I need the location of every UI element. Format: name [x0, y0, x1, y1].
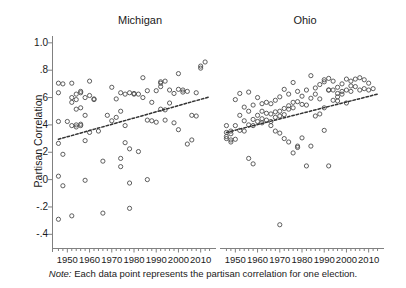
data-point: [371, 87, 375, 91]
data-point: [282, 106, 286, 110]
data-point: [287, 92, 291, 96]
data-point: [260, 102, 264, 106]
data-point: [255, 95, 259, 99]
data-point: [83, 178, 87, 182]
data-point: [172, 121, 176, 125]
data-point: [114, 115, 118, 119]
data-point: [145, 89, 149, 93]
data-point: [331, 98, 335, 102]
partisan-correlation-figure: Michigan Ohio Partisan Correlation 1.0.8…: [0, 0, 406, 288]
data-point: [70, 81, 74, 85]
data-point: [251, 162, 255, 166]
data-point: [251, 117, 255, 121]
data-point: [101, 159, 105, 163]
data-point: [56, 141, 60, 145]
y-axis-tick-label: .0: [20, 175, 48, 185]
data-point: [273, 115, 277, 119]
data-point: [150, 119, 154, 123]
data-point: [154, 120, 158, 124]
data-point: [335, 85, 339, 89]
data-point: [145, 118, 149, 122]
data-point: [322, 128, 326, 132]
data-point: [119, 91, 123, 95]
y-axis-tick-label: .2: [20, 147, 48, 157]
data-point: [229, 132, 233, 136]
scatter-plot-canvas: [0, 0, 406, 288]
data-point: [190, 113, 194, 117]
data-point: [127, 181, 131, 185]
data-point: [344, 77, 348, 81]
panel-title-ohio: Ohio: [260, 14, 350, 26]
data-point: [295, 89, 299, 93]
data-point: [255, 119, 259, 123]
data-point: [56, 174, 60, 178]
data-point: [304, 88, 308, 92]
data-point: [349, 84, 353, 88]
data-point: [313, 86, 317, 90]
data-point: [61, 82, 65, 86]
data-point: [185, 142, 189, 146]
data-point: [304, 103, 308, 107]
data-point: [101, 211, 105, 215]
data-point: [291, 106, 295, 110]
data-point: [145, 178, 149, 182]
data-point: [127, 147, 131, 151]
data-point: [278, 114, 282, 118]
data-point: [255, 113, 259, 117]
data-point: [282, 87, 286, 91]
data-point: [172, 91, 176, 95]
data-point: [331, 79, 335, 83]
data-point: [291, 151, 295, 155]
data-point: [70, 100, 74, 104]
data-point: [260, 109, 264, 113]
data-point: [353, 77, 357, 81]
data-point: [238, 91, 242, 95]
data-point: [335, 99, 339, 103]
data-point: [141, 95, 145, 99]
data-point: [327, 164, 331, 168]
data-point: [56, 119, 60, 123]
data-point: [264, 100, 268, 104]
data-point: [185, 89, 189, 93]
data-point: [127, 206, 131, 210]
data-point: [136, 92, 140, 96]
data-point: [163, 118, 167, 122]
data-point: [87, 79, 91, 83]
data-point: [56, 91, 60, 95]
data-point: [362, 87, 366, 91]
data-point: [331, 88, 335, 92]
data-point: [309, 96, 313, 100]
data-point: [70, 95, 74, 99]
y-axis-tick-label: .4: [20, 120, 48, 130]
data-point: [233, 123, 237, 127]
data-point: [79, 106, 83, 110]
data-point: [313, 92, 317, 96]
data-point: [291, 80, 295, 84]
data-point: [242, 105, 246, 109]
data-point: [251, 103, 255, 107]
data-point: [194, 91, 198, 95]
data-point: [353, 85, 357, 89]
data-point: [70, 214, 74, 218]
data-point: [287, 140, 291, 144]
data-point: [327, 88, 331, 92]
data-point: [224, 123, 228, 127]
data-point: [61, 184, 65, 188]
data-point: [309, 144, 313, 148]
data-point: [247, 109, 251, 113]
data-point: [340, 82, 344, 86]
data-point: [74, 98, 78, 102]
data-point: [167, 88, 171, 92]
data-point: [176, 128, 180, 132]
data-point: [167, 101, 171, 105]
data-point: [278, 131, 282, 135]
data-point: [70, 123, 74, 127]
data-point: [119, 156, 123, 160]
data-point: [119, 165, 123, 169]
data-point: [74, 107, 78, 111]
y-axis-tick-label: .8: [20, 65, 48, 75]
data-point: [300, 102, 304, 106]
panel-title-michigan: Michigan: [95, 14, 185, 26]
data-point: [264, 111, 268, 115]
data-point: [83, 113, 87, 117]
